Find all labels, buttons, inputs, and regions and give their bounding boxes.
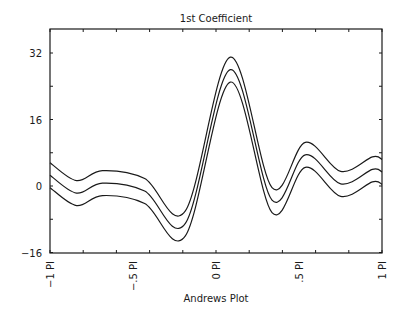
x-axis-label: Andrews Plot bbox=[184, 293, 249, 304]
y-tick-label: 0 bbox=[36, 181, 42, 192]
axis-ticks bbox=[50, 29, 382, 253]
data-lines bbox=[50, 57, 382, 241]
y-tick-label: 32 bbox=[29, 48, 42, 59]
y-axis-tick-labels: 32160−16 bbox=[21, 48, 42, 259]
x-axis-tick-labels: −1 PI−.5 PI0 PI.5 PI1 PI bbox=[45, 261, 388, 291]
x-tick-label: 0 PI bbox=[211, 261, 222, 280]
x-tick-label: 1 PI bbox=[377, 261, 388, 280]
andrews-plot-chart: 1st Coefficient 32160−16 −1 PI−.5 PI0 PI… bbox=[0, 0, 410, 322]
x-tick-label: −.5 PI bbox=[128, 261, 139, 291]
chart-title: 1st Coefficient bbox=[180, 13, 252, 24]
plot-frame bbox=[50, 29, 382, 253]
series-line-upper bbox=[50, 57, 382, 216]
y-tick-label: −16 bbox=[21, 248, 42, 259]
x-tick-label: .5 PI bbox=[294, 261, 305, 283]
y-tick-label: 16 bbox=[29, 115, 42, 126]
x-tick-label: −1 PI bbox=[45, 261, 56, 288]
